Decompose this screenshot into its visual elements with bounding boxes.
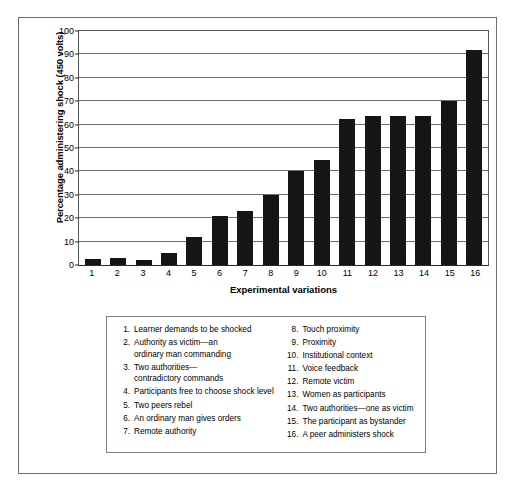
bar [85,259,101,265]
bar [136,260,152,265]
legend-item-label: An ordinary man gives orders [134,413,241,425]
legend-item: 7.Remote authority [115,426,283,438]
legend-item-label: Voice feedback [302,363,358,375]
x-tick-label: 9 [284,268,310,278]
legend-item: 12.Remote victim [283,376,419,388]
bar-slot [80,31,105,265]
legend-item-label: Learner demands to be shocked [134,324,251,336]
bar-chart: Percentage administering shock (450 volt… [19,18,498,301]
x-tick-label: 13 [386,268,412,278]
bar [365,116,381,265]
legend-item-label: Women as participants [302,389,385,401]
x-tick-label: 15 [437,268,463,278]
legend-item-label: Institutional context [302,350,372,362]
legend-item-number: 7. [115,426,130,438]
legend-column-right: 8.Touch proximity9.Proximity10.Instituti… [283,324,419,446]
legend-item: 15.The participant as bystander [283,416,419,428]
bar-slot [233,31,258,265]
x-tick-label: 5 [181,268,207,278]
y-tick-label: 0 [69,260,74,270]
x-tick-label: 14 [411,268,437,278]
legend-item-number: 10. [283,350,298,362]
x-tick-label: 10 [309,268,335,278]
legend-item: 13.Women as participants [283,389,419,401]
legend-item-number: 11. [283,363,298,375]
x-tick-label: 4 [156,268,182,278]
bar-slot [334,31,359,265]
bar-slot [207,31,232,265]
x-tick-label: 6 [207,268,233,278]
y-tick-label: 20 [64,213,74,223]
x-tick-label: 11 [335,268,361,278]
legend-item-number: 12. [283,376,298,388]
legend-item: 3.Two authorities—contradictory commands [115,362,283,385]
x-tick-label: 16 [462,268,488,278]
bar [339,119,355,265]
legend-item: 1.Learner demands to be shocked [115,324,283,336]
bar-slot [284,31,309,265]
plot-area: 0102030405060708090100 [78,30,489,266]
legend-item-label: Remote victim [302,376,354,388]
legend-item: 9.Proximity [283,337,419,349]
bar [161,253,177,265]
bar-slot [436,31,461,265]
y-tick-label: 90 [64,49,74,59]
legend-item-number: 2. [115,337,130,349]
legend-item: 5.Two peers rebel [115,400,283,412]
legend-item-number: 16. [283,429,298,441]
x-tick-label: 3 [130,268,156,278]
bar-series [79,31,488,265]
bar [186,237,202,265]
bar-slot [309,31,334,265]
legend-item: 6.An ordinary man gives orders [115,413,283,425]
legend-item-number: 9. [283,337,298,349]
legend-item-label: Authority as victim—anordinary man comma… [134,337,231,360]
bar [237,211,253,265]
legend-item: 14.Two authorities—one as victim [283,403,419,415]
y-tick-label: 30 [64,190,74,200]
legend-item-label: Touch proximity [302,324,359,336]
legend-item-label-continued: contradictory commands [134,373,223,385]
legend-item-number: 1. [115,324,130,336]
legend-box: 1.Learner demands to be shocked2.Authori… [106,316,426,453]
x-tick-label: 2 [105,268,131,278]
legend-item-number: 3. [115,362,130,374]
legend-column-left: 1.Learner demands to be shocked2.Authori… [115,324,283,446]
legend-item: 2.Authority as victim—anordinary man com… [115,337,283,360]
legend-item-label: Proximity [302,337,336,349]
bar [212,216,228,265]
legend-item: 16.A peer administers shock [283,429,419,441]
bar-slot [156,31,181,265]
bar-slot [462,31,487,265]
legend-item-label: Two peers rebel [134,400,192,412]
bar-slot [182,31,207,265]
x-tick-label: 8 [258,268,284,278]
legend-item-number: 8. [283,324,298,336]
legend-item-number: 13. [283,389,298,401]
legend-item-label: Participants free to choose shock level [134,386,274,398]
y-tick-label: 40 [64,166,74,176]
bar [390,116,406,265]
x-tick-label: 1 [79,268,105,278]
bar-slot [258,31,283,265]
y-tick-label: 80 [64,73,74,83]
bar [466,50,482,265]
legend-item-number: 4. [115,386,130,398]
legend-item: 8.Touch proximity [283,324,419,336]
bar [314,160,330,265]
legend-item: 4.Participants free to choose shock leve… [115,386,283,398]
legend-item-number: 15. [283,416,298,428]
y-axis-title: Percentage administering shock (450 volt… [54,8,65,248]
bar [415,116,431,265]
y-tick-label: 50 [64,143,74,153]
legend-item-number: 6. [115,413,130,425]
bar-slot [131,31,156,265]
y-tick-label: 100 [59,26,74,36]
bar-slot [360,31,385,265]
bar-slot [385,31,410,265]
legend-item-label: Remote authority [134,426,196,438]
legend-item-number: 14. [283,403,298,415]
legend-item: 10.Institutional context [283,350,419,362]
y-tick-label: 60 [64,120,74,130]
bar [288,171,304,265]
